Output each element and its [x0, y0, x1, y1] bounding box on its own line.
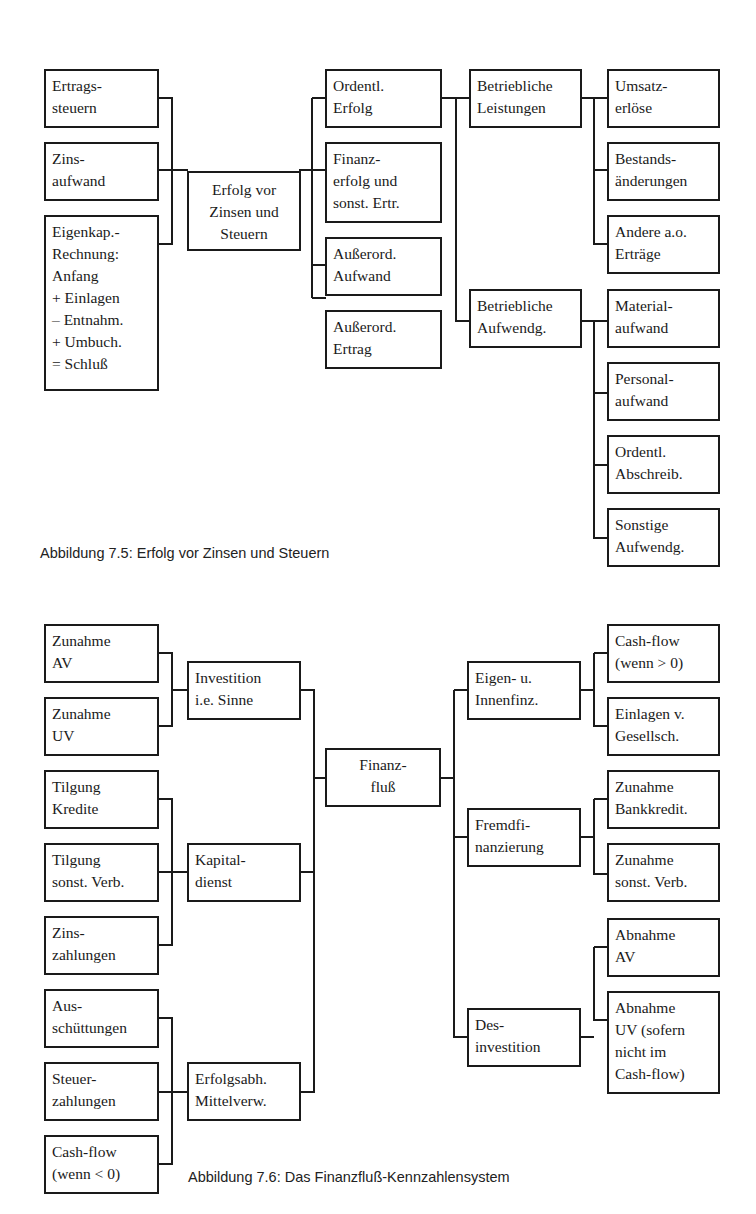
node-abnahme-av: Abnahme AV: [607, 918, 720, 977]
node-zinsaufwand: Zins- aufwand: [44, 142, 159, 201]
node-erfolgsabh-mittelverw: Erfolgsabh. Mittelverw.: [187, 1062, 301, 1121]
node-zinszahlungen: Zins- zahlungen: [44, 916, 159, 975]
node-steuerzahlungen: Steuer- zahlungen: [44, 1062, 159, 1121]
node-umsatzerloese: Umsatz- erlöse: [607, 69, 720, 128]
node-zunahme-bankkredit: Zunahme Bankkredit.: [607, 770, 720, 829]
node-zunahme-uv: Zunahme UV: [44, 697, 159, 756]
node-andere-ao-ertraege: Andere a.o. Erträge: [607, 215, 720, 274]
node-eigen-innenfinanzierung: Eigen- u. Innenfinz.: [467, 661, 581, 720]
node-erfolg-vor-zinsen-und-steuern: Erfolg vor Zinsen und Steuern: [187, 171, 301, 251]
node-betriebliche-leistungen: Betriebliche Leistungen: [469, 69, 582, 128]
node-finanzfluss: Finanz- fluß: [325, 748, 441, 807]
node-cashflow-positiv: Cash-flow (wenn > 0): [607, 624, 720, 683]
node-eigenkapital-rechnung: Eigenkap.- Rechnung: Anfang + Einlagen –…: [44, 215, 159, 391]
node-ertragssteuern: Ertrags- steuern: [44, 69, 159, 128]
node-cashflow-negativ: Cash-flow (wenn < 0): [44, 1135, 159, 1194]
node-tilgung-kredite: Tilgung Kredite: [44, 770, 159, 829]
node-tilgung-sonst-verb: Tilgung sonst. Verb.: [44, 843, 159, 902]
node-einlagen-gesellschafter: Einlagen v. Gesellsch.: [607, 697, 720, 756]
caption-figure-7-5: Abbildung 7.5: Erfolg vor Zinsen und Ste…: [40, 545, 329, 561]
diagram-canvas: Ertrags- steuern Zins- aufwand Eigenkap.…: [0, 0, 756, 1214]
node-betriebliche-aufwendungen: Betriebliche Aufwendg.: [469, 289, 582, 348]
node-ausschuettungen: Aus- schüttungen: [44, 989, 159, 1048]
node-desinvestition: Des- investition: [467, 1008, 581, 1067]
node-finanzerfolg: Finanz- erfolg und sonst. Ertr.: [325, 142, 442, 223]
node-ordentl-abschreibungen: Ordentl. Abschreib.: [607, 435, 720, 494]
node-fremdfinanzierung: Fremdfi- nanzierung: [467, 808, 581, 867]
node-abnahme-uv: Abnahme UV (sofern nicht im Cash-flow): [607, 991, 720, 1094]
node-sonstige-aufwendungen: Sonstige Aufwendg.: [607, 508, 720, 567]
node-zunahme-av: Zunahme AV: [44, 624, 159, 683]
node-ausserord-ertrag: Außerord. Ertrag: [325, 310, 442, 369]
node-bestandsaenderungen: Bestands- änderungen: [607, 142, 720, 201]
node-ausserord-aufwand: Außerord. Aufwand: [325, 237, 442, 296]
node-personalaufwand: Personal- aufwand: [607, 362, 720, 421]
caption-figure-7-6: Abbildung 7.6: Das Finanzfluß-Kennzahlen…: [188, 1169, 510, 1185]
node-ordentl-erfolg: Ordentl. Erfolg: [325, 69, 442, 128]
node-zunahme-sonst-verb: Zunahme sonst. Verb.: [607, 843, 720, 902]
node-kapitaldienst: Kapital- dienst: [187, 843, 301, 902]
node-investition: Investition i.e. Sinne: [187, 661, 301, 720]
node-materialaufwand: Material- aufwand: [607, 289, 720, 348]
